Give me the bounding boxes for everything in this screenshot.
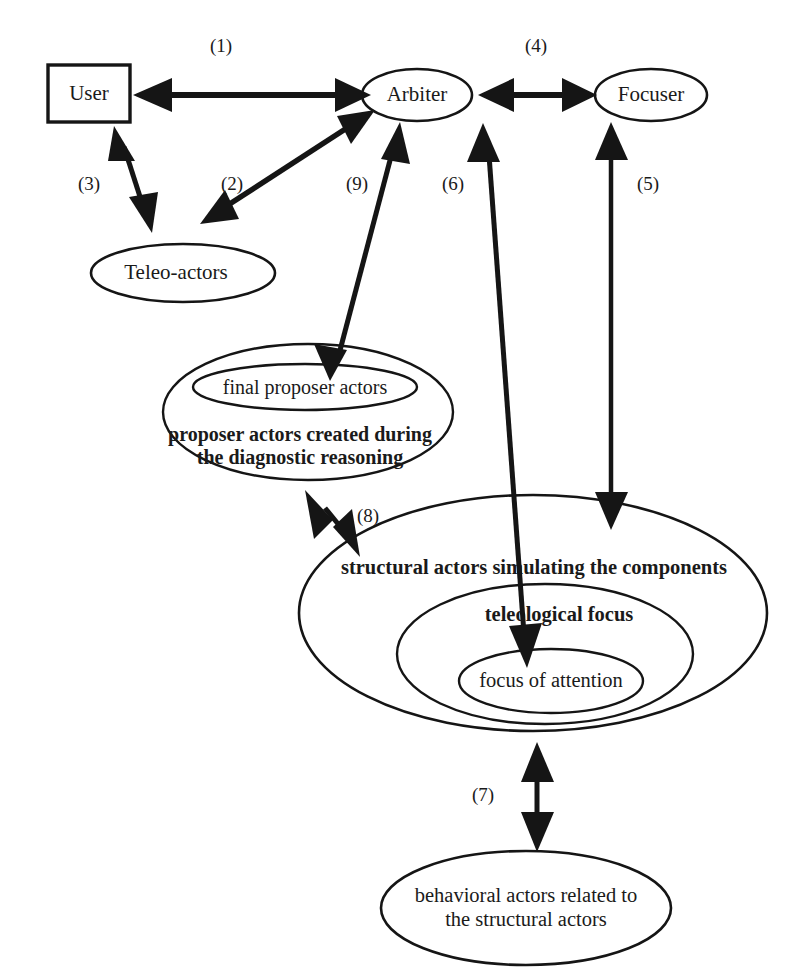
edge-label-6: (6) [442,173,464,195]
node-teleological-focus-label: teleological focus [485,603,634,626]
node-behavioral-line2-label: the structural actors [445,908,607,930]
arrow-head-down [129,192,158,233]
arrow-head-down [509,623,542,668]
edge-label-4: (4) [525,35,547,57]
node-teleo-actors-label: Teleo-actors [124,260,227,284]
edge-5-focuser-structural-actors [595,122,628,530]
node-focuser[interactable]: Focuser [595,69,707,121]
arrow-head-right [335,78,371,112]
node-behavioral-line1-label: behavioral actors related to [415,884,638,906]
arrow-head-up-right [337,110,375,144]
node-proposer-line2-label: the diagnostic reasoning [197,446,403,469]
node-arbiter[interactable]: Arbiter [362,69,472,121]
edge-label-2: (2) [221,173,243,195]
arrow-head-up [595,122,628,160]
node-focus-of-attention-label: focus of attention [479,669,622,691]
arrow-head-right [562,78,597,112]
edge-label-5: (5) [637,173,659,195]
edge-label-3: (3) [78,173,100,195]
node-proposer-actors[interactable]: final proposer actors proposer actors cr… [163,344,453,480]
edge-9-arbiter-final-proposer [314,122,410,381]
arrow-head-left [133,78,172,112]
node-focuser-label: Focuser [618,82,685,106]
edge-label-1: (1) [210,35,232,57]
edge-7-structural-behavioral [521,742,554,852]
edge-label-7: (7) [472,784,494,806]
node-behavioral-actors[interactable]: behavioral actors related to the structu… [381,851,671,965]
edge-4-arbiter-focuser [478,78,597,112]
edge-2-arbiter-teleo-actors [200,110,375,224]
node-user[interactable]: User [48,65,130,122]
arrow-head-up [467,123,500,162]
node-teleo-actors[interactable]: Teleo-actors [91,244,275,302]
edge-label-8: (8) [357,505,379,527]
arrow-head-down-left [200,190,239,224]
node-structural-actors-label: structural actors simulating the compone… [341,556,727,579]
node-proposer-line1-label: proposer actors created during [168,423,432,446]
arrow-head-up [521,742,554,782]
edge-3-user-teleo-actors [108,126,158,233]
edge-8-proposer-structural [305,490,360,557]
arrow-head-up [381,122,410,164]
diagram-canvas: User Arbiter Focuser Teleo-actors final … [0,0,795,977]
node-structural-actors[interactable]: structural actors simulating the compone… [299,495,767,731]
arrow-head-down [521,812,554,852]
node-arbiter-label: Arbiter [387,82,448,106]
architecture-diagram: User Arbiter Focuser Teleo-actors final … [0,0,795,977]
arrow-head-down [595,492,628,530]
arrow-head-left [478,78,514,112]
edge-1-user-arbiter [133,78,371,112]
node-final-proposer-label: final proposer actors [223,376,388,399]
node-user-label: User [69,81,109,105]
edge-label-9: (9) [346,173,368,195]
arrow-head-up [108,126,135,161]
